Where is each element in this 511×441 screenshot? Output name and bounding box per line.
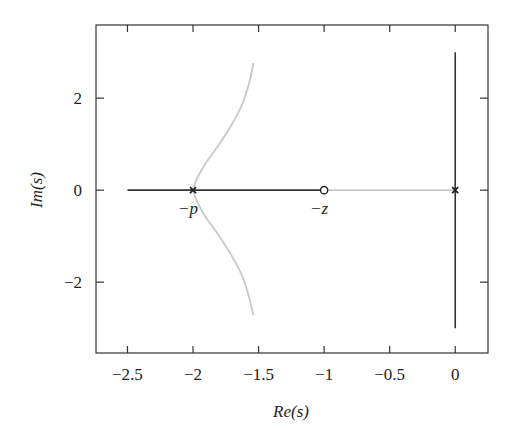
x-tick-label: 0	[451, 365, 460, 384]
x-axis-label: Re(s)	[272, 402, 309, 421]
marker-label: −z	[310, 199, 328, 218]
root-locus-chart: −2.5−2−1.5−1−0.50−202 −p−z Re(s) Im(s)	[0, 0, 511, 441]
x-tick-label: −2.5	[112, 365, 143, 384]
x-tick-label: −1	[315, 365, 333, 384]
x-tick-label: −0.5	[374, 365, 405, 384]
x-tick-label: −2	[184, 365, 202, 384]
x-tick-label: −1.5	[243, 365, 274, 384]
y-tick-label: 2	[74, 89, 83, 108]
upper-branch-line	[193, 63, 253, 190]
pole-zero-markers: −p−z	[178, 187, 458, 219]
marker-label: −p	[178, 199, 198, 218]
y-tick-label: 0	[74, 181, 83, 200]
zero-circle-icon	[321, 187, 328, 194]
y-axis-label: Im(s)	[27, 172, 46, 209]
lower-branch-line	[193, 190, 253, 315]
axes-frame	[96, 25, 488, 353]
y-tick-label: −2	[64, 273, 82, 292]
plot-series	[127, 52, 455, 328]
axis-ticks: −2.5−2−1.5−1−0.50−202	[64, 25, 488, 384]
